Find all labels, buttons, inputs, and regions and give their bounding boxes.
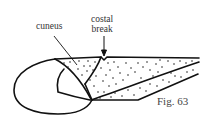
membrane-outline — [14, 59, 92, 114]
figure-caption: Fig. 63 — [157, 96, 188, 107]
costal-break-label-line2: break — [91, 24, 113, 34]
costal-break-label-line1: costal — [91, 14, 113, 24]
cuneus-label: cuneus — [36, 22, 62, 32]
costal-margin — [55, 57, 199, 60]
costal-break-label: costal break — [91, 14, 113, 34]
costal-break-arrow — [102, 36, 107, 56]
stipple — [63, 59, 194, 99]
